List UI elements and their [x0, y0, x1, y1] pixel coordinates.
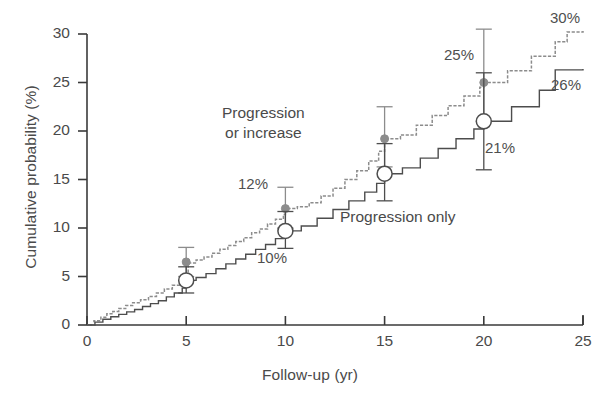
data-point-open: [278, 223, 293, 238]
value-annotation: 26%: [551, 75, 581, 94]
series-layer: [87, 31, 583, 325]
x-tick-label: 5: [171, 332, 201, 350]
y-tick-label: 25: [40, 73, 70, 91]
marker-layer: [178, 29, 492, 293]
value-annotation: 30%: [550, 8, 580, 27]
data-point-filled: [381, 135, 389, 143]
cumulative-probability-chart: Cumulative probability (%) Follow-up (yr…: [0, 0, 596, 393]
x-tick-label: 0: [72, 332, 102, 350]
x-tick-label: 20: [469, 332, 499, 350]
y-axis-title: Cumulative probability (%): [22, 62, 40, 292]
value-annotation: 21%: [485, 138, 515, 157]
series-label: Progression only: [340, 207, 455, 227]
value-annotation: 12%: [238, 174, 268, 193]
y-tick-label: 5: [40, 267, 70, 285]
data-point-open: [476, 114, 491, 129]
value-annotation: 10%: [257, 248, 287, 267]
data-point-open: [179, 273, 194, 288]
y-axis-ticks: [78, 34, 87, 325]
y-tick-label: 20: [40, 121, 70, 139]
x-tick-label: 25: [568, 332, 596, 350]
x-tick-label: 15: [370, 332, 400, 350]
series-line-1: [87, 31, 583, 325]
x-tick-label: 10: [270, 332, 300, 350]
y-tick-label: 15: [40, 170, 70, 188]
y-tick-label: 10: [40, 218, 70, 236]
series-line-2: [87, 69, 583, 325]
x-axis-ticks: [87, 316, 583, 325]
value-annotation: 25%: [444, 45, 474, 64]
data-point-open: [377, 166, 392, 181]
data-point-filled: [182, 258, 190, 266]
y-tick-label: 30: [40, 24, 70, 42]
y-tick-label: 0: [40, 315, 70, 333]
x-axis-title: Follow-up (yr): [230, 366, 390, 384]
series-label: Progressionor increase: [222, 103, 305, 143]
